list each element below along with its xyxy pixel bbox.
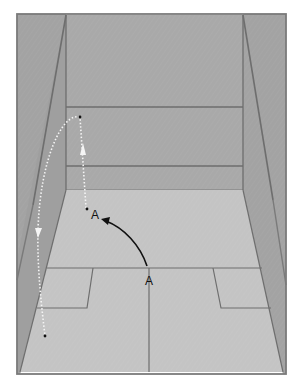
court-diagram: A A [0, 0, 299, 387]
ball-point-front-wall [79, 116, 82, 119]
label-player-start: A [145, 274, 153, 288]
label-player-end: A [91, 208, 99, 222]
ball-point-start [86, 208, 89, 211]
front-wall [66, 15, 243, 190]
ball-point-end [44, 335, 47, 338]
